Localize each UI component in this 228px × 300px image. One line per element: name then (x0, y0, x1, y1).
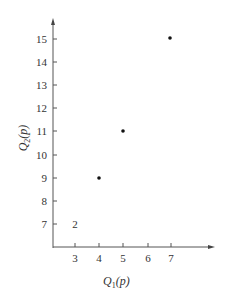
scatter-chart: 7 8 9 10 11 12 13 14 15 3 4 5 6 7 2 Q1(p… (0, 0, 228, 300)
svg-text:5: 5 (120, 252, 126, 264)
svg-text:10: 10 (36, 149, 48, 161)
svg-text:3: 3 (72, 252, 78, 264)
y-ticks (53, 39, 57, 224)
x-tick-labels: 3 4 5 6 7 (72, 252, 174, 264)
x-ticks (75, 243, 171, 247)
svg-text:13: 13 (36, 79, 48, 91)
data-point (121, 129, 125, 133)
svg-text:6: 6 (145, 252, 151, 264)
data-point (168, 36, 172, 40)
y-tick-labels: 7 8 9 10 11 12 13 14 15 (36, 33, 48, 230)
x-axis-label: Q1(p) (103, 274, 130, 290)
svg-text:12: 12 (36, 102, 47, 114)
annotation-label: 2 (72, 218, 78, 230)
svg-text:11: 11 (36, 125, 47, 137)
svg-text:15: 15 (36, 33, 48, 45)
data-points (97, 36, 172, 180)
x-axis-arrow-icon (208, 245, 215, 249)
y-axis-arrow-icon (51, 18, 55, 25)
y-axis-label: Q2(p) (16, 125, 32, 152)
svg-text:4: 4 (96, 252, 102, 264)
svg-text:8: 8 (42, 195, 48, 207)
svg-text:14: 14 (36, 56, 48, 68)
svg-text:7: 7 (168, 252, 174, 264)
data-point (97, 176, 101, 180)
svg-text:7: 7 (42, 218, 48, 230)
svg-text:9: 9 (42, 172, 48, 184)
